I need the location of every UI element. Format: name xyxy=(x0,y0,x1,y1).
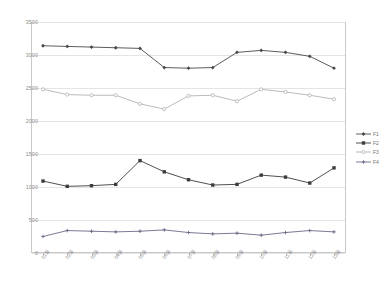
gridline xyxy=(32,154,345,155)
legend-item-f4[interactable]: F4 xyxy=(356,159,379,165)
legend-label: F3 xyxy=(373,149,379,155)
data-point-marker xyxy=(362,132,366,136)
legend-item-f3[interactable]: F3 xyxy=(356,149,379,155)
y-axis-tick-label: 500 xyxy=(14,217,38,223)
legend-symbol-icon xyxy=(356,149,371,155)
y-axis-tick-label: 1000 xyxy=(14,184,38,190)
gridline xyxy=(32,55,345,56)
y-axis-tick-label: 2500 xyxy=(14,85,38,91)
legend-item-f1[interactable]: F1 xyxy=(356,131,379,137)
y-axis-tick-label: 0 xyxy=(14,250,38,256)
y-axis-tick-label: 2000 xyxy=(14,118,38,124)
line-chart: 0500100015002000250030003500 01월02월03월04… xyxy=(0,0,392,294)
gridline xyxy=(32,187,345,188)
legend-symbol-icon xyxy=(356,131,371,137)
data-point-marker xyxy=(362,151,365,154)
data-point-marker xyxy=(362,160,366,164)
legend-label: F2 xyxy=(373,140,379,146)
chart-legend: F1F2F3F4 xyxy=(356,131,379,165)
legend-label: F1 xyxy=(373,131,379,137)
y-axis-tick-label: 1500 xyxy=(14,151,38,157)
legend-label: F4 xyxy=(373,159,379,165)
gridline xyxy=(32,22,345,23)
legend-symbol-icon xyxy=(356,140,371,146)
gridline xyxy=(32,220,345,221)
y-axis-tick-label: 3500 xyxy=(14,19,38,25)
plot-area xyxy=(31,22,346,253)
data-point-marker xyxy=(362,141,365,144)
gridline xyxy=(32,121,345,122)
y-axis-tick-label: 3000 xyxy=(14,52,38,58)
gridline xyxy=(32,88,345,89)
legend-symbol-icon xyxy=(356,159,371,165)
legend-item-f2[interactable]: F2 xyxy=(356,140,379,146)
